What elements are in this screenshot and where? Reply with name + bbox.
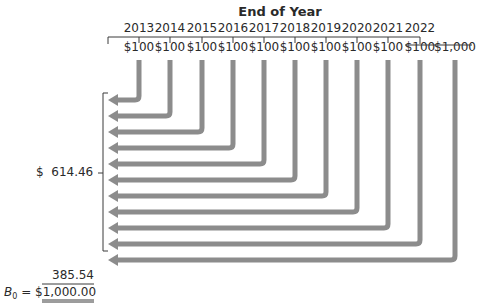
bond-value-row: B0 = $1,000.00 (4, 285, 94, 301)
bond-value-symbol: B (4, 285, 12, 299)
discount-arrows (116, 60, 455, 260)
arrowheads (108, 94, 118, 266)
bond-value-total: $1,000.00 (35, 285, 96, 299)
bond-value-equals: = (17, 285, 35, 299)
coupon-bracket (98, 93, 108, 251)
pv-coupons-value: $ 614.46 (36, 165, 93, 179)
pv-principal-value: 385.54 (42, 268, 94, 282)
timeline-graphic (0, 0, 498, 306)
timeline-axis (108, 37, 472, 45)
